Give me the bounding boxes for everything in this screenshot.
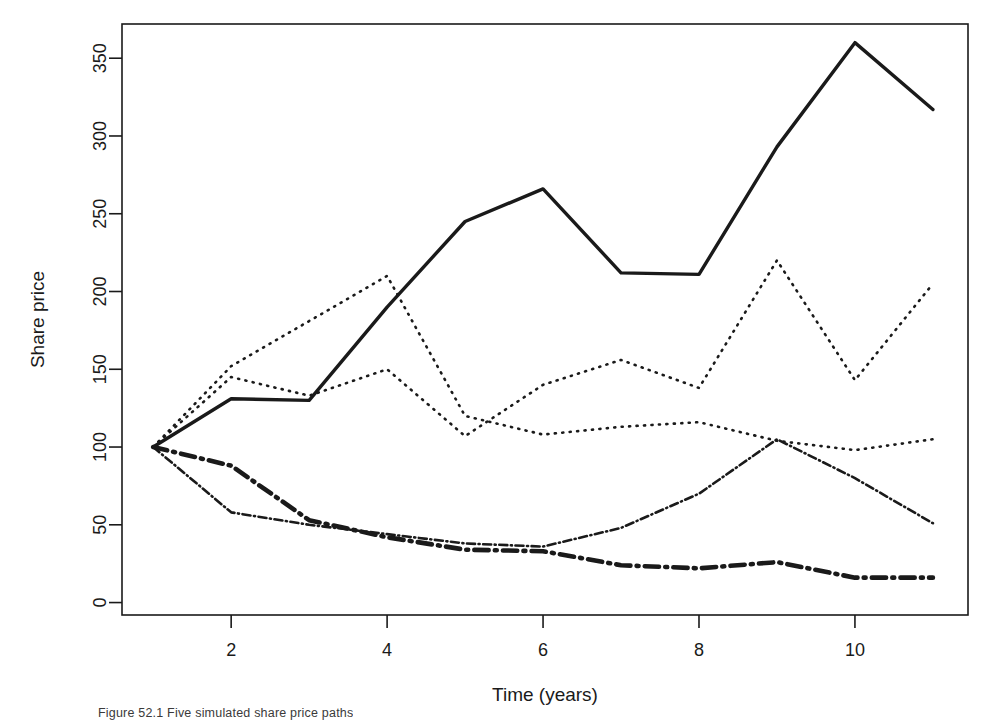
axis-tick-labels: 246810050100150200250300350: [90, 43, 865, 660]
x-tick-label: 4: [382, 640, 392, 660]
series-line-1: [153, 43, 933, 447]
x-tick-label: 2: [226, 640, 236, 660]
x-tick-label: 6: [538, 640, 548, 660]
y-tick-label: 350: [90, 43, 110, 73]
plot-frame: [122, 24, 968, 615]
y-axis-title: Share price: [27, 271, 48, 368]
y-tick-label: 150: [90, 354, 110, 384]
series-line-5: [153, 447, 933, 578]
plot-border: [122, 24, 968, 615]
axis-ticks: [109, 58, 855, 628]
y-tick-label: 100: [90, 432, 110, 462]
y-tick-label: 50: [90, 515, 110, 535]
y-tick-label: 0: [90, 598, 110, 608]
axis-titles: Time (years)Share price: [27, 271, 598, 705]
y-tick-label: 300: [90, 121, 110, 151]
figure-container: 246810050100150200250300350 Time (years)…: [0, 0, 1005, 725]
data-series-lines: [153, 43, 933, 578]
x-tick-label: 8: [694, 640, 704, 660]
y-tick-label: 200: [90, 276, 110, 306]
figure-caption: Figure 52.1 Five simulated share price p…: [98, 706, 353, 725]
y-tick-label: 250: [90, 199, 110, 229]
share-price-line-chart: 246810050100150200250300350 Time (years)…: [0, 0, 1005, 725]
x-tick-label: 10: [845, 640, 865, 660]
series-line-3: [153, 260, 933, 447]
x-axis-title: Time (years): [492, 684, 598, 705]
series-line-2: [153, 276, 933, 450]
